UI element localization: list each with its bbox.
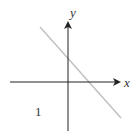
x-axis-label: x (123, 75, 130, 90)
coordinate-diagram: y x 1 (0, 0, 138, 140)
graph-line (40, 27, 121, 118)
y-axis-label: y (68, 5, 76, 20)
annotation-label: 1 (35, 104, 42, 119)
